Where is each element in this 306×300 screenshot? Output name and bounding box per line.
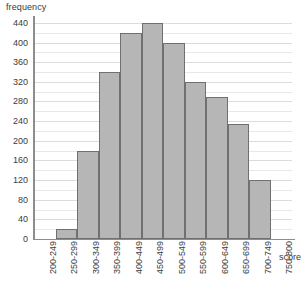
x-axis-tick-label: 300-349 <box>92 241 101 274</box>
bar <box>163 43 185 239</box>
x-axis-title: score <box>279 252 301 262</box>
y-axis-tick-label: 440 <box>13 18 28 27</box>
y-axis-line <box>33 16 35 240</box>
x-axis-tick-label: 400-449 <box>135 241 144 274</box>
y-axis-tick-label: 40 <box>18 215 28 224</box>
x-axis-tick-label: 650-699 <box>242 241 251 274</box>
plot-area <box>34 18 292 239</box>
bar <box>99 72 121 239</box>
x-axis-tick-label: 500-549 <box>178 241 187 274</box>
bar <box>206 97 228 239</box>
y-axis-tick-labels: 04080120160200240280320360400440 <box>0 0 32 300</box>
bar <box>185 82 207 239</box>
x-axis-line <box>33 239 295 240</box>
y-axis-tick-label: 240 <box>13 117 28 126</box>
y-axis-tick-label: 360 <box>13 58 28 67</box>
y-axis-tick-label: 80 <box>18 195 28 204</box>
x-axis-tick-label: 600-649 <box>221 241 230 274</box>
y-axis-tick-label: 320 <box>13 77 28 86</box>
x-axis-tick-label: 200-249 <box>49 241 58 274</box>
y-axis-tick-label: 120 <box>13 176 28 185</box>
x-axis-tick-labels: 200-249250-299300-349350-399400-449450-4… <box>34 241 292 299</box>
bar <box>120 33 142 239</box>
x-axis-tick-label: 350-399 <box>113 241 122 274</box>
histogram-chart: frequency 040801201602002402803203604004… <box>0 0 306 300</box>
y-axis-tick-label: 280 <box>13 97 28 106</box>
x-axis-tick-label: 550-599 <box>199 241 208 274</box>
y-axis-tick-label: 200 <box>13 136 28 145</box>
bar <box>249 180 271 239</box>
x-axis-tick-label: 700-749 <box>264 241 273 274</box>
bar <box>77 151 99 239</box>
x-axis-tick-label: 250-299 <box>70 241 79 274</box>
bar <box>142 23 164 239</box>
bar <box>228 124 250 239</box>
x-axis-tick-label: 450-499 <box>156 241 165 274</box>
bars <box>34 18 292 239</box>
bar <box>56 229 78 239</box>
y-axis-tick-label: 0 <box>23 235 28 244</box>
y-axis-tick-label: 160 <box>13 156 28 165</box>
y-axis-tick-label: 400 <box>13 38 28 47</box>
